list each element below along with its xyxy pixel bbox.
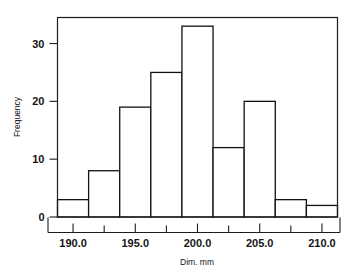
x-axis-title: Dim. mm: [180, 257, 214, 267]
histogram-bar: [306, 205, 337, 217]
histogram-bar: [89, 171, 120, 217]
chart-canvas: 0102030 190.0195.0200.0205.0210.0 Dim. m…: [0, 0, 351, 277]
y-axis-title: Frequency: [12, 96, 22, 137]
y-axis-tick-label: 20: [32, 95, 44, 107]
histogram-chart: 0102030 190.0195.0200.0205.0210.0 Dim. m…: [0, 0, 351, 277]
x-axis-tick-label: 210.0: [308, 237, 336, 249]
histogram-bar: [213, 148, 244, 217]
y-axis-tick-label: 10: [32, 153, 44, 165]
histogram-bar: [275, 200, 306, 217]
histogram-bar: [182, 26, 213, 217]
histogram-bar: [120, 107, 151, 217]
x-axis-tick-label: 190.0: [59, 237, 87, 249]
x-axis-tick-label: 195.0: [122, 237, 150, 249]
y-axis-tick-label: 0: [38, 211, 44, 223]
x-axis-tick-label: 205.0: [246, 237, 274, 249]
histogram-bar: [244, 101, 275, 217]
y-axis-tick-label: 30: [32, 38, 44, 50]
x-axis-tick-label: 200.0: [184, 237, 212, 249]
histogram-bar: [58, 200, 89, 217]
histogram-bar: [151, 72, 182, 217]
